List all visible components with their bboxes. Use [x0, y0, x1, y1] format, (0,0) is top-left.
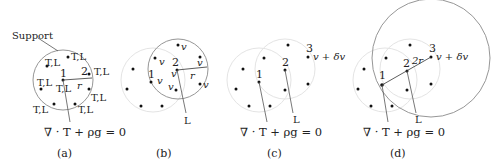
node [385, 57, 388, 60]
node [406, 89, 409, 92]
node [391, 105, 394, 108]
L-leader-line [285, 70, 293, 113]
node-label: T,L [33, 104, 48, 115]
node [235, 88, 238, 91]
node [263, 57, 266, 60]
node [430, 83, 433, 86]
L-label: L [415, 114, 422, 125]
radius-label: r [190, 70, 196, 81]
node-label: T,L [91, 92, 106, 103]
figure-canvas: Support r T,L T,L T,L T,L T,L T,L T,L T,… [0, 0, 499, 168]
radius-label: r [77, 80, 83, 91]
node-label: v [157, 75, 163, 86]
point-2-label: 2 [282, 56, 289, 69]
point-2-label: 2 [81, 65, 88, 78]
point-1-label: 1 [379, 69, 386, 82]
node [284, 89, 287, 92]
radius-label: 2r [411, 55, 424, 66]
point-2-label: 2 [403, 57, 410, 70]
point-3-label: 3 [306, 42, 313, 55]
panel-b: r v v v v v v v 2 1 L (b) [121, 39, 209, 160]
node [140, 105, 143, 108]
node [132, 68, 135, 71]
point-1-label: 1 [148, 68, 155, 81]
caption-a: (a) [57, 147, 72, 160]
node-3 [307, 56, 310, 59]
panel-d: 2r 1 2 3 v + δv L ∇ · T + ρg = 0 (d) [353, 0, 490, 160]
node-label: v [168, 81, 174, 92]
node [370, 105, 373, 108]
node-label: T,L [45, 57, 60, 68]
node [161, 105, 164, 108]
point-2-label: 2 [172, 56, 179, 69]
node [242, 68, 245, 71]
node [287, 44, 290, 47]
point-1-label: 1 [60, 67, 67, 80]
node-label: v [181, 41, 187, 52]
node-label: v [159, 56, 165, 67]
node [67, 56, 70, 59]
node [74, 103, 77, 106]
equation: ∇ · T + ρg = 0 [363, 125, 445, 139]
node [126, 88, 129, 91]
L-label: L [293, 114, 300, 125]
node [307, 83, 310, 86]
node [363, 68, 366, 71]
node [175, 89, 178, 92]
point-3-label: 3 [429, 42, 436, 55]
node [177, 44, 180, 47]
caption-b: (b) [156, 147, 172, 160]
point-3-value: v + δv [436, 51, 468, 62]
panel-a: Support r T,L T,L T,L T,L T,L T,L T,L T,… [12, 30, 126, 160]
node [88, 88, 91, 91]
node-label: T,L [71, 51, 86, 62]
node-label: v [197, 57, 203, 68]
equation: ∇ · T + ρg = 0 [240, 125, 322, 139]
node [154, 57, 157, 60]
L-label: L [184, 115, 191, 126]
node [269, 105, 272, 108]
node-label: v [203, 79, 209, 90]
equation-leader-line [382, 85, 388, 122]
panel-c: 1 2 3 v + δv L ∇ · T + ρg = 0 (c) [227, 39, 345, 160]
node [357, 88, 360, 91]
equation: ∇ · T + ρg = 0 [44, 125, 126, 139]
node-label: T,L [37, 77, 52, 88]
point-1-label: 1 [256, 68, 263, 81]
node [248, 105, 251, 108]
caption-d: (d) [390, 147, 406, 160]
caption-c: (c) [267, 147, 282, 160]
node [53, 103, 56, 106]
node [409, 44, 412, 47]
support-label: Support [12, 30, 53, 41]
node-label: T,L [78, 104, 93, 115]
equation-leader-line [259, 82, 267, 122]
node-label: v [171, 68, 177, 79]
node-label: T,L [94, 66, 109, 77]
point-3-value: v + δv [313, 51, 345, 62]
node [199, 83, 202, 86]
